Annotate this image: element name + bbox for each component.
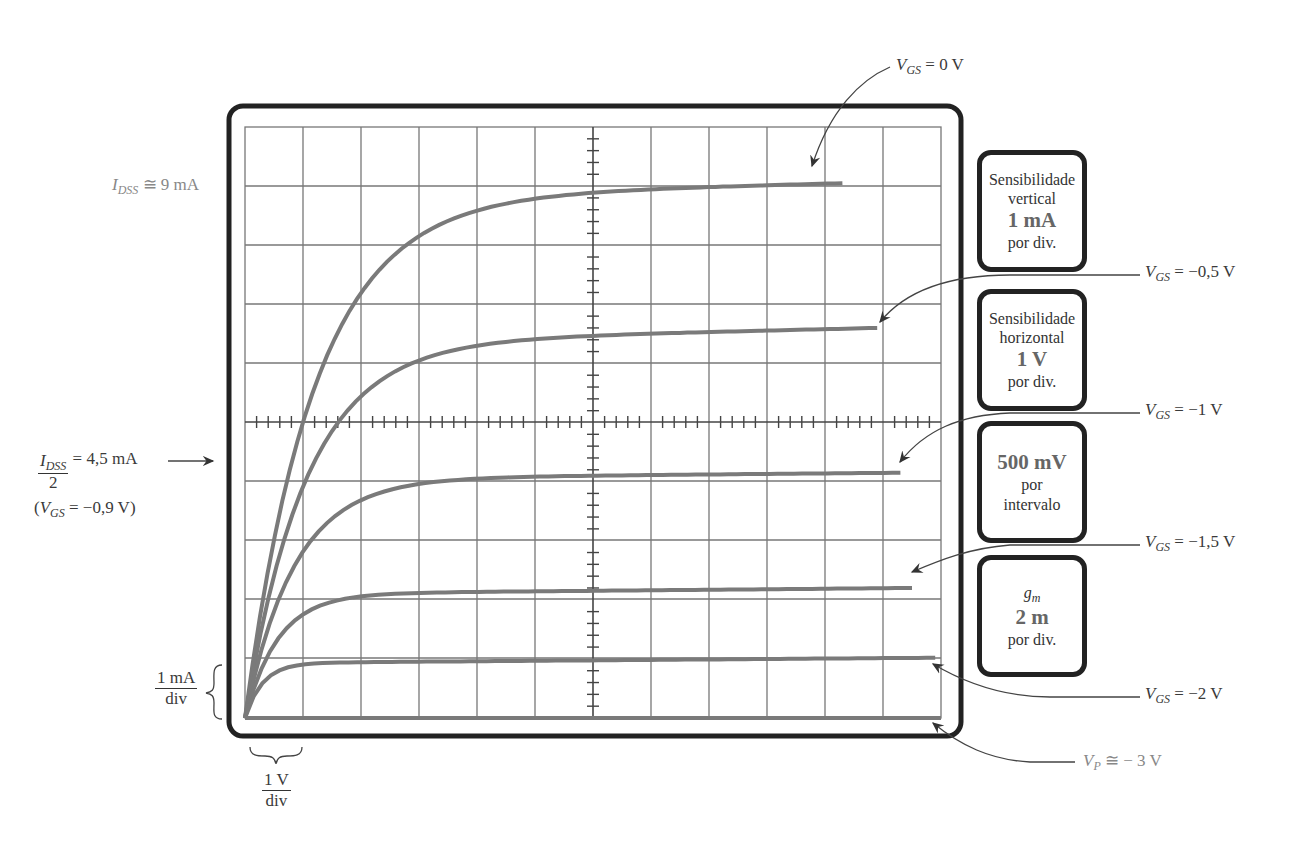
label-vgs-minus-1: VGS = −1 V	[1145, 400, 1222, 423]
label-vgs-0: VGS = 0 V	[896, 55, 964, 78]
label-vp: VP ≅ − 3 V	[1083, 750, 1162, 774]
label-horizontal-scale: 1 Vdiv	[262, 770, 291, 811]
panel-vertical-sensitivity: Sensibilidadevertical1 mApor div.	[977, 150, 1087, 272]
label-idss-half: IDSS2 = 4,5 mA	[38, 450, 137, 493]
label-idss: IDSS ≅ 9 mA	[112, 174, 199, 198]
panel-gm-scale: gm2 mpor div.	[977, 555, 1087, 677]
curve-2	[245, 473, 900, 718]
label-vgs-minus-1-5: VGS = −1,5 V	[1145, 532, 1235, 555]
curve-0	[245, 183, 842, 718]
panel-horizontal-sensitivity: Sensibilidadehorizontal1 Vpor div.	[977, 289, 1087, 411]
label-vgs-minus-2: VGS = −2 V	[1145, 684, 1222, 707]
label-vgs-minus-0-9: (VGS = −0,9 V)	[34, 498, 136, 521]
curve-3	[245, 588, 912, 718]
curve-4	[245, 658, 935, 718]
label-vgs-minus-0-5: VGS = −0,5 V	[1145, 262, 1235, 285]
curve-tracer-plot	[0, 0, 1294, 850]
label-vertical-scale: 1 mAdiv	[155, 668, 197, 709]
panel-step-voltage: 500 mVporintervalo	[977, 421, 1087, 543]
